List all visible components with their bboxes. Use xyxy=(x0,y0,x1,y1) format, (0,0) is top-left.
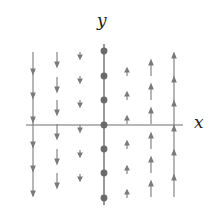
arrow-column-x-minus-3 xyxy=(31,52,35,196)
equilibrium-dot xyxy=(101,170,108,177)
equilibrium-dot xyxy=(101,73,108,80)
vector-field-diagram xyxy=(0,0,213,214)
equilibrium-dot xyxy=(101,122,108,129)
arrow-column-x-minus-1 xyxy=(78,52,82,181)
equilibrium-dot xyxy=(101,97,108,104)
equilibrium-dot xyxy=(101,48,108,55)
y-axis-label: y xyxy=(97,12,107,29)
x-axis-label: x xyxy=(194,114,204,131)
arrow-column-x-1 xyxy=(125,68,129,198)
equilibrium-dot xyxy=(101,146,108,153)
arrow-column-x-minus-2 xyxy=(55,52,59,188)
arrow-column-x-2 xyxy=(149,60,153,197)
equilibrium-dot xyxy=(101,195,108,202)
